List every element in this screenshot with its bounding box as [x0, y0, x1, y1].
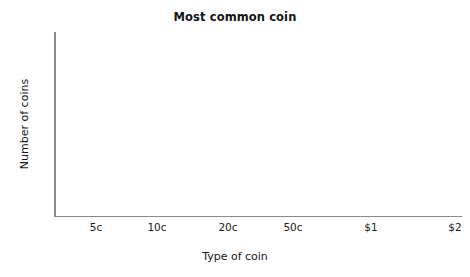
x-tick-label-2: 20c — [218, 220, 237, 234]
y-axis-title: Number of coins — [18, 79, 31, 169]
chart-figure: Most common coin 5c 10c 20c 50c $1 $2 Ty… — [0, 0, 470, 277]
x-tick-label-1: 10c — [147, 220, 166, 234]
x-tick-label-5: $2 — [448, 220, 461, 234]
x-axis-line — [54, 216, 462, 218]
y-axis-line — [54, 32, 56, 217]
x-axis-tick-labels: 5c 10c 20c 50c $1 $2 — [0, 220, 470, 238]
x-tick-label-4: $1 — [364, 220, 377, 234]
x-tick-label-0: 5c — [90, 220, 102, 234]
chart-title: Most common coin — [0, 10, 470, 24]
y-axis-title-wrapper: Number of coins — [14, 32, 34, 216]
plot-area — [54, 32, 462, 216]
x-tick-label-3: 50c — [283, 220, 302, 234]
x-axis-title: Type of coin — [0, 250, 470, 263]
